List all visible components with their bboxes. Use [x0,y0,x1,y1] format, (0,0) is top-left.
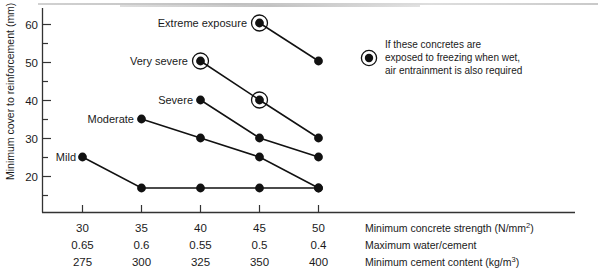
data-point [137,115,146,124]
x-tick-label: 0.5 [252,239,268,251]
series-label-extreme-exposure: Extreme exposure [158,17,247,29]
series-label-very-severe: Very severe [130,55,188,67]
x-tick-label: 0.65 [71,239,93,251]
legend-marker-dot [365,54,373,62]
legend: If these concretes are exposed to freezi… [361,39,522,76]
axis-row-label-cement-content: Minimum cement content (kg/m3) [365,255,519,268]
y-tick-label: 60 [25,19,38,31]
axis-row-label-water-cement: Maximum water/cement [365,239,477,251]
x-tick-labels-cement-content: 275 300 325 350 400 [73,256,328,268]
x-tick-label: 275 [73,256,92,268]
x-tick-label: 300 [132,256,151,268]
data-point [255,184,264,193]
data-point [255,153,264,162]
x-tick-labels-water-cement: 0.65 0.6 0.55 0.5 0.4 [71,239,327,251]
legend-line: If these concretes are [385,39,482,50]
x-tick-label: 30 [76,222,89,234]
legend-line: exposed to freezing when wet, [385,52,520,63]
y-tick-label: 20 [25,171,38,183]
x-tick-label: 400 [309,256,328,268]
axis-lines [42,8,575,213]
data-point [314,153,323,162]
x-tick-label: 325 [191,256,210,268]
series-moderate: Moderate [88,113,323,192]
x-tick-label: 35 [135,222,148,234]
data-point [255,96,264,105]
x-tick-labels-strength: 30 35 40 45 50 [76,222,325,234]
data-point [196,134,205,143]
data-point [314,57,323,66]
x-tick-label: 0.55 [189,239,211,251]
data-point [255,134,264,143]
series-label-mild: Mild [56,151,76,163]
series-mild: Mild [56,151,323,192]
chart-svg: 60 50 40 30 20 Minimum cover to reinforc… [0,0,601,280]
series-label-severe: Severe [158,94,193,106]
y-axis-ticks [43,25,52,196]
data-point [196,96,205,105]
data-point [196,57,205,66]
data-point [255,19,264,28]
axis-row-descriptions: Minimum concrete strength (N/mm2) Maximu… [365,221,534,268]
x-axis-ticks [83,205,319,213]
x-tick-label: 45 [253,222,266,234]
x-tick-label: 0.6 [134,239,150,251]
y-tick-labels: 60 50 40 30 20 [25,19,38,183]
y-axis-title: Minimum cover to reinforcement (mm) [4,3,16,180]
data-point [196,184,205,193]
series-label-moderate: Moderate [88,113,134,125]
y-tick-label: 40 [25,95,38,107]
chart-figure: 60 50 40 30 20 Minimum cover to reinforc… [0,0,601,280]
x-tick-label: 350 [250,256,269,268]
data-point [314,134,323,143]
y-tick-label: 30 [25,133,38,145]
data-point [314,184,323,193]
legend-line: air entrainment is also required [385,65,522,76]
y-tick-label: 50 [25,57,38,69]
axis-row-label-strength: Minimum concrete strength (N/mm2) [365,221,534,234]
x-tick-label: 40 [194,222,207,234]
data-point [78,153,87,162]
x-tick-label: 50 [312,222,325,234]
x-tick-label: 0.4 [311,239,328,251]
data-point [137,184,146,193]
